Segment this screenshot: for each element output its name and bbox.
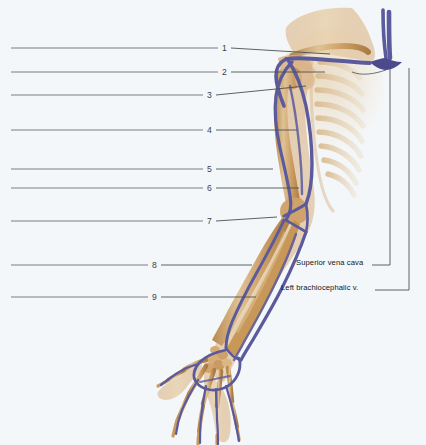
label-superior-vena-cava: Superior vena cava xyxy=(296,258,363,267)
answer-number-4: 4 xyxy=(207,125,212,135)
answer-number-9: 9 xyxy=(152,292,157,302)
answer-numbers: 123456789 xyxy=(152,43,227,302)
answer-number-6: 6 xyxy=(207,183,212,193)
label-left-brachiocephalic-vein: Left brachiocephalic v. xyxy=(281,283,358,292)
limb-soft-tissue xyxy=(157,8,384,442)
answer-number-2: 2 xyxy=(222,67,227,77)
answer-number-1: 1 xyxy=(222,43,227,53)
upper-limb-veins-diagram: 123456789 xyxy=(0,0,426,445)
leader-line-7 xyxy=(216,217,277,221)
answer-number-8: 8 xyxy=(152,260,157,270)
answer-number-5: 5 xyxy=(207,164,212,174)
answer-number-3: 3 xyxy=(207,90,212,100)
superior-vena-cava-vessel xyxy=(389,12,390,58)
answer-number-7: 7 xyxy=(207,216,212,226)
